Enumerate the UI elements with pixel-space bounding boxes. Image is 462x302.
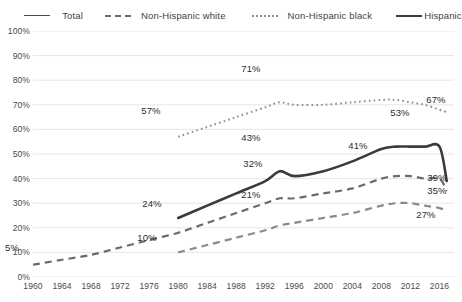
legend-item-total[interactable]: Total xyxy=(24,6,83,24)
x-axis-tick-label: 1984 xyxy=(198,281,217,291)
legend-item-non-hispanic-black[interactable]: Non-Hispanic black xyxy=(252,6,373,24)
x-axis-tick-label: 1972 xyxy=(110,281,129,291)
data-point-label: 57% xyxy=(141,105,160,116)
data-point-label: 39% xyxy=(427,172,446,183)
x-axis-tick-label: 1996 xyxy=(285,281,304,291)
legend-item-non-hispanic-white[interactable]: Non-Hispanic white xyxy=(105,6,226,24)
x-axis-tick-label: 1988 xyxy=(227,281,246,291)
x-axis-tick-label: 1960 xyxy=(23,281,42,291)
data-point-label: 24% xyxy=(142,198,161,209)
series-line xyxy=(33,176,447,265)
y-axis: 0%10%20%30%40%50%60%70%80%90%100% xyxy=(0,31,30,277)
x-axis-tick-label: 1980 xyxy=(169,281,188,291)
x-axis-tick-label: 1964 xyxy=(52,281,71,291)
data-point-label: 71% xyxy=(241,63,260,74)
data-point-label: 43% xyxy=(241,132,260,143)
x-axis-tick-label: 1976 xyxy=(139,281,158,291)
y-axis-tick-label: 80% xyxy=(0,75,30,85)
y-axis-tick-label: 90% xyxy=(0,51,30,61)
data-point-label: 41% xyxy=(348,140,367,151)
y-axis-tick-label: 30% xyxy=(0,198,30,208)
y-axis-tick-label: 20% xyxy=(0,223,30,233)
chart-legend: Total Non-Hispanic white Non-Hispanic bl… xyxy=(0,6,462,24)
series-lines xyxy=(33,100,447,265)
y-axis-tick-label: 60% xyxy=(0,124,30,134)
legend-label-non-hispanic-white: Non-Hispanic white xyxy=(141,10,226,21)
line-dashed-icon xyxy=(105,10,131,20)
x-axis-tick-label: 1992 xyxy=(256,281,275,291)
series-line xyxy=(178,144,447,218)
y-axis-tick-label: 100% xyxy=(0,26,30,36)
data-point-label: 21% xyxy=(241,189,260,200)
data-point-label: 32% xyxy=(243,158,262,169)
x-axis-tick-label: 1968 xyxy=(81,281,100,291)
legend-label-hispanic: Hispanic xyxy=(424,10,462,21)
line-solid-thick-icon xyxy=(396,10,422,20)
x-axis-tick-label: 2008 xyxy=(372,281,391,291)
legend-label-non-hispanic-black: Non-Hispanic black xyxy=(288,10,373,21)
x-axis-tick-label: 2004 xyxy=(343,281,362,291)
data-point-label: 5% xyxy=(5,242,19,253)
data-point-label: 10% xyxy=(137,232,156,243)
x-axis-tick-label: 2000 xyxy=(314,281,333,291)
line-solid-thin-icon xyxy=(24,10,50,20)
data-point-label: 27% xyxy=(416,209,435,220)
y-axis-tick-label: 40% xyxy=(0,174,30,184)
legend-item-hispanic[interactable]: Hispanic xyxy=(396,6,462,24)
data-point-label: 67% xyxy=(426,94,445,105)
line-dotted-icon xyxy=(252,10,278,20)
legend-label-total: Total xyxy=(62,10,83,21)
data-point-label: 35% xyxy=(427,185,446,196)
line-chart: Total Non-Hispanic white Non-Hispanic bl… xyxy=(0,0,462,302)
x-axis-tick-label: 2012 xyxy=(401,281,420,291)
x-axis-tick-label: 2016 xyxy=(430,281,449,291)
y-axis-tick-label: 50% xyxy=(0,149,30,159)
data-point-label: 53% xyxy=(390,107,409,118)
y-axis-tick-label: 70% xyxy=(0,100,30,110)
x-axis: 1960196419681972197619801984198819921996… xyxy=(33,281,454,297)
